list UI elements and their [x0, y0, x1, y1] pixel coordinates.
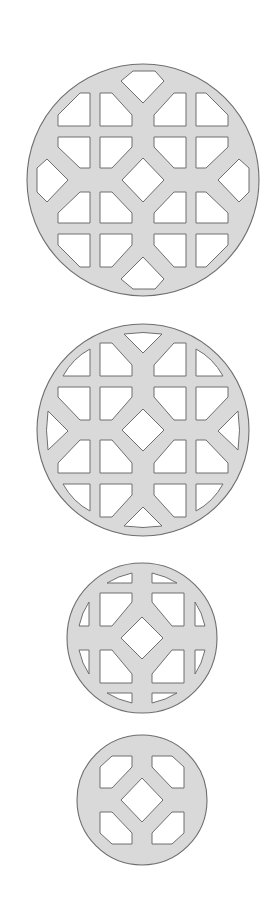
lattice-figure [0, 0, 275, 901]
lattice-smallest [77, 735, 207, 865]
lattice-small [67, 563, 217, 713]
lattice-large [27, 64, 259, 296]
lattice-medium [37, 324, 249, 536]
